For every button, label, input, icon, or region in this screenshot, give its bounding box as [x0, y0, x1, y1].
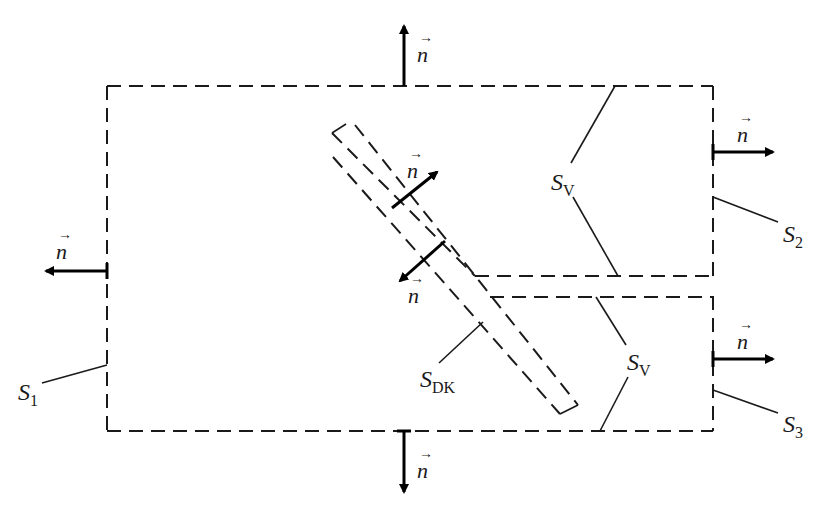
normal-arrows [46, 26, 773, 492]
svg-text:→: → [409, 146, 423, 161]
svg-text:→: → [419, 446, 433, 461]
svg-text:n: n [737, 329, 748, 354]
svg-text:→: → [739, 110, 753, 125]
diagonal-channel [332, 124, 578, 414]
leader-lines [42, 86, 778, 431]
svg-text:→: → [58, 227, 72, 242]
label-s1: S1 [18, 379, 38, 409]
svg-text:n: n [56, 239, 67, 264]
label-sdk: SDK [420, 366, 456, 396]
label-sv-bottom: SV [627, 349, 651, 379]
label-s2: S2 [783, 221, 803, 251]
label-sv-top: SV [551, 169, 575, 199]
svg-text:→: → [419, 30, 433, 45]
svg-text:n: n [737, 122, 748, 147]
control-volume-diagram: n → n → n → n → n → n → n → S1 S2 S3 SV … [0, 0, 829, 517]
svg-text:→: → [410, 271, 424, 286]
svg-text:n: n [408, 283, 419, 308]
svg-text:n: n [417, 42, 428, 67]
svg-text:n: n [417, 458, 428, 483]
svg-text:n: n [407, 158, 418, 183]
normal-labels: n → n → n → n → n → n → n → [56, 30, 753, 483]
label-s3: S3 [783, 411, 803, 441]
control-volume-boundary [107, 86, 713, 431]
svg-text:→: → [739, 317, 753, 332]
